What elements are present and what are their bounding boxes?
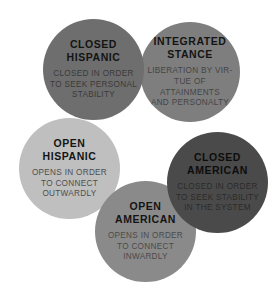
circle-title: CLOSED HISPANIC — [61, 38, 127, 64]
circle-integrated-stance: INTEGRATED STANCE LIBERATION BY VIR- TUE… — [140, 22, 240, 122]
circle-description: CLOSED IN ORDER TO SEEK STABILITY IN THE… — [169, 182, 266, 214]
circle-closed-hispanic: CLOSED HISPANIC CLOSED IN ORDER TO SEEK … — [43, 19, 144, 120]
circle-title: OPEN HISPANIC — [37, 137, 103, 163]
circle-description: OPENS IN ORDER TO CONNECT OUTWARDLY — [25, 168, 114, 200]
circle-title: INTEGRATED STANCE — [148, 35, 233, 61]
circle-description: CLOSED IN ORDER TO SEEK PERSONAL STABILI… — [43, 69, 144, 101]
circle-closed-american: CLOSED AMERICAN CLOSED IN ORDER TO SEEK … — [167, 132, 268, 233]
circle-description: OPENS IN ORDER TO CONNECT INWARDLY — [101, 231, 190, 263]
circle-title: CLOSED AMERICAN — [181, 151, 254, 177]
circle-cluster-diagram: CLOSED HISPANIC CLOSED IN ORDER TO SEEK … — [0, 0, 279, 293]
circle-description: LIBERATION BY VIR- TUE OF ATTAINMENTS AN… — [140, 66, 240, 108]
